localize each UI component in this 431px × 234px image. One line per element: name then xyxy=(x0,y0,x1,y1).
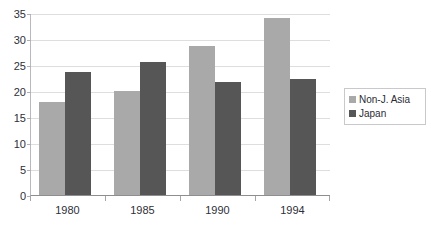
bar-group xyxy=(106,14,181,195)
bar[interactable] xyxy=(140,62,166,195)
bottom-edge-strip xyxy=(0,228,431,234)
x-axis-tick-label: 1980 xyxy=(33,203,103,217)
bar[interactable] xyxy=(39,102,65,195)
legend-item-label: Japan xyxy=(359,108,386,119)
y-axis-labels: 05101520253035 xyxy=(0,14,26,196)
y-axis-tick-label: 20 xyxy=(2,87,26,98)
x-tick-mark xyxy=(105,196,106,201)
y-axis-tick-label: 15 xyxy=(2,113,26,124)
legend-item-label: Non-J. Asia xyxy=(359,94,410,105)
plot-area xyxy=(30,14,330,196)
bar-group xyxy=(256,14,331,195)
y-axis-tick-label: 35 xyxy=(2,9,26,20)
x-tick-mark xyxy=(30,196,31,201)
bar[interactable] xyxy=(114,91,140,195)
bar[interactable] xyxy=(65,72,91,195)
y-axis-tick-label: 0 xyxy=(2,191,26,202)
legend-item[interactable]: Japan xyxy=(349,106,421,120)
x-tick-mark xyxy=(255,196,256,201)
legend-swatch-icon xyxy=(349,110,356,117)
y-axis-tick-label: 30 xyxy=(2,35,26,46)
x-axis-labels: 1980198519901994 xyxy=(30,203,330,219)
y-axis-tick-label: 25 xyxy=(2,61,26,72)
y-axis-tick-label: 10 xyxy=(2,139,26,150)
x-tick-mark xyxy=(180,196,181,201)
legend-item[interactable]: Non-J. Asia xyxy=(349,92,421,106)
chart-screenshot: 05101520253035 1980198519901994 Non-J. A… xyxy=(0,0,431,234)
bar-group xyxy=(31,14,106,195)
y-axis-tick-label: 5 xyxy=(2,165,26,176)
bar[interactable] xyxy=(215,82,241,195)
chart-legend: Non-J. AsiaJapan xyxy=(344,88,426,125)
x-tick-mark xyxy=(329,196,330,201)
x-axis-tick-label: 1994 xyxy=(258,203,328,217)
bar[interactable] xyxy=(189,46,215,195)
x-axis-ticks xyxy=(30,196,330,201)
bar[interactable] xyxy=(290,79,316,195)
x-axis-tick-label: 1990 xyxy=(183,203,253,217)
x-axis-tick-label: 1985 xyxy=(108,203,178,217)
chart-title xyxy=(0,0,431,3)
legend-swatch-icon xyxy=(349,96,356,103)
bar[interactable] xyxy=(264,18,290,195)
bar-group xyxy=(181,14,256,195)
